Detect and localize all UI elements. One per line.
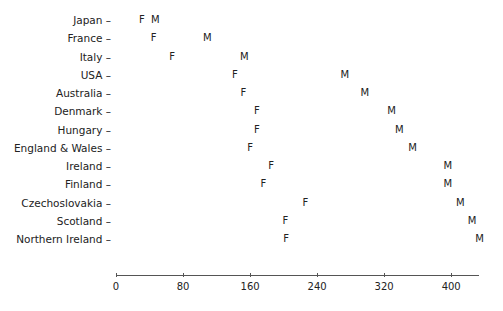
marker-f: F <box>232 69 238 81</box>
x-tick-mark <box>250 273 251 277</box>
marker-m: M <box>395 124 404 136</box>
category-label: Australia – <box>56 87 111 99</box>
marker-f: F <box>282 215 288 227</box>
category-label: Scotland – <box>57 215 111 227</box>
marker-f: F <box>261 178 267 190</box>
dot-plot-chart: Japan –FMFrance –FMItaly –FMUSA –FMAustr… <box>0 0 503 311</box>
x-tick-label: 160 <box>241 281 260 293</box>
category-label: USA – <box>81 69 111 81</box>
marker-m: M <box>361 87 370 99</box>
marker-m: M <box>387 105 396 117</box>
marker-m: M <box>468 215 477 227</box>
marker-f: F <box>268 160 274 172</box>
category-label: Italy – <box>80 51 111 63</box>
marker-m: M <box>151 14 160 26</box>
x-tick-mark <box>451 273 452 277</box>
marker-m: M <box>408 142 417 154</box>
x-tick-mark <box>384 273 385 277</box>
x-axis-line <box>116 275 479 276</box>
category-label: Northern Ireland – <box>16 233 111 245</box>
marker-m: M <box>240 51 249 63</box>
marker-m: M <box>475 233 484 245</box>
category-label: Denmark – <box>54 105 111 117</box>
x-tick-label: 320 <box>375 281 394 293</box>
category-label: Hungary – <box>58 124 111 136</box>
category-label: Finland – <box>65 178 111 190</box>
marker-m: M <box>444 178 453 190</box>
x-tick-label: 400 <box>442 281 461 293</box>
x-tick-label: 80 <box>177 281 190 293</box>
category-label: Japan – <box>73 14 111 26</box>
marker-f: F <box>254 105 260 117</box>
marker-f: F <box>139 14 145 26</box>
marker-m: M <box>456 197 465 209</box>
marker-f: F <box>302 197 308 209</box>
x-tick-label: 0 <box>113 281 119 293</box>
x-tick-mark <box>317 273 318 277</box>
marker-f: F <box>240 87 246 99</box>
category-label: England & Wales – <box>14 142 111 154</box>
category-label: Ireland – <box>66 160 111 172</box>
marker-m: M <box>203 32 212 44</box>
marker-m: M <box>444 160 453 172</box>
marker-f: F <box>283 233 289 245</box>
marker-f: F <box>254 124 260 136</box>
marker-f: F <box>247 142 253 154</box>
x-tick-mark <box>183 273 184 277</box>
marker-f: F <box>169 51 175 63</box>
x-tick-label: 240 <box>308 281 327 293</box>
marker-m: M <box>340 69 349 81</box>
marker-f: F <box>151 32 157 44</box>
x-tick-mark <box>116 273 117 277</box>
category-label: France – <box>67 32 111 44</box>
category-label: Czechoslovakia – <box>21 197 111 209</box>
